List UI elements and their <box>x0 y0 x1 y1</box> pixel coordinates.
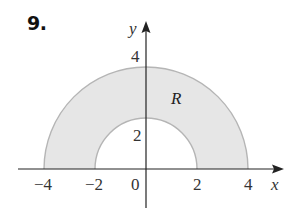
y-tick-2: 2 <box>133 126 142 145</box>
polar-region-figure: 9. y x 4 2 −4 −2 0 2 4 R <box>0 0 305 208</box>
x-axis-label: x <box>270 175 279 194</box>
x-tick-neg2: −2 <box>85 175 103 194</box>
problem-number: 9. <box>27 12 46 34</box>
y-tick-4: 4 <box>131 47 140 66</box>
x-tick-4: 4 <box>244 175 253 194</box>
y-axis-label: y <box>127 19 137 38</box>
region-label: R <box>170 89 182 108</box>
x-tick-neg4: −4 <box>34 175 53 194</box>
x-tick-2: 2 <box>193 175 202 194</box>
x-tick-0: 0 <box>131 175 140 194</box>
